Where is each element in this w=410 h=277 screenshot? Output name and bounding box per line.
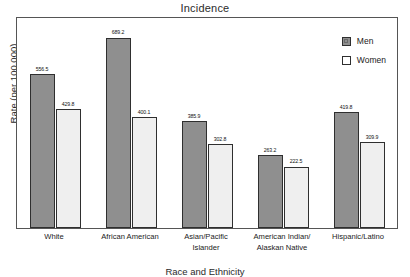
bar-value-label-women-2: 302.8 bbox=[202, 136, 239, 142]
bar-value-label-men-1: 689.2 bbox=[100, 29, 137, 35]
bar-women-1 bbox=[132, 117, 157, 228]
x-axis-label-line: American Indian/ bbox=[244, 232, 320, 243]
x-axis-label-1: African American bbox=[92, 232, 168, 243]
bar-value-label-men-0: 556.5 bbox=[24, 66, 61, 72]
chart-title: Incidence bbox=[0, 2, 410, 14]
bar-value-label-women-1: 400.1 bbox=[126, 109, 163, 115]
legend-label-women: Women bbox=[357, 55, 386, 65]
bar-men-4 bbox=[334, 112, 359, 228]
x-axis-label-line: Alaskan Native bbox=[244, 243, 320, 254]
x-axis-label-line: Hispanic/Latino bbox=[320, 232, 396, 243]
bar-value-label-men-4: 419.8 bbox=[328, 104, 365, 110]
bar-value-label-women-3: 222.5 bbox=[278, 158, 315, 164]
x-axis-label-line: Asian/Pacific bbox=[168, 232, 244, 243]
x-axis-title: Race and Ethnicity bbox=[0, 266, 410, 277]
x-axis-label-line: African American bbox=[92, 232, 168, 243]
bar-men-0 bbox=[30, 74, 55, 228]
bar-women-0 bbox=[56, 109, 81, 228]
plot-area: 556.5429.8689.2400.1385.9302.8263.2222.5… bbox=[16, 17, 398, 229]
bar-men-3 bbox=[258, 155, 283, 228]
bar-men-1 bbox=[106, 38, 131, 228]
legend-item-men: Men bbox=[342, 36, 386, 46]
x-axis-label-4: Hispanic/Latino bbox=[320, 232, 396, 243]
bar-value-label-men-2: 385.9 bbox=[176, 113, 213, 119]
legend-label-men: Men bbox=[357, 36, 374, 46]
bar-value-label-women-0: 429.8 bbox=[50, 101, 87, 107]
bar-women-2 bbox=[208, 144, 233, 228]
chart-legend: Men Women bbox=[342, 36, 386, 65]
x-axis-label-3: American Indian/Alaskan Native bbox=[244, 232, 320, 253]
bar-women-3 bbox=[284, 167, 309, 228]
bar-value-label-men-3: 263.2 bbox=[252, 147, 289, 153]
x-axis-label-line: White bbox=[16, 232, 92, 243]
bar-women-4 bbox=[360, 142, 385, 228]
x-axis-label-line: Islander bbox=[168, 243, 244, 254]
x-axis-label-0: White bbox=[16, 232, 92, 243]
bars-layer: 556.5429.8689.2400.1385.9302.8263.2222.5… bbox=[17, 18, 397, 228]
x-axis-category-labels: WhiteAfrican AmericanAsian/PacificIsland… bbox=[16, 232, 398, 262]
x-axis-label-2: Asian/PacificIslander bbox=[168, 232, 244, 253]
legend-swatch-women-icon bbox=[342, 56, 351, 65]
legend-swatch-men-icon bbox=[342, 37, 351, 46]
bar-value-label-women-4: 309.9 bbox=[354, 134, 391, 140]
legend-item-women: Women bbox=[342, 55, 386, 65]
